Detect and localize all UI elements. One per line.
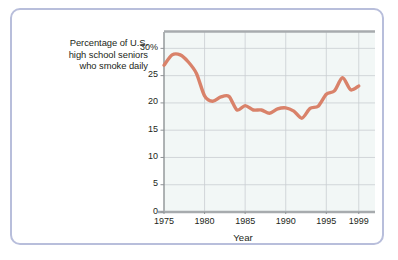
x-axis-title-text: Year [233,232,252,243]
figure-frame: Percentage of U.S. high school seniors w… [10,8,384,245]
x-tick-label: 1975 [144,216,184,226]
x-tick-label: 1985 [225,216,265,226]
chart-axis-title-line-1: Percentage of U.S. [26,37,148,49]
x-tick-label: 1990 [266,216,306,226]
chart-axis-title-line-3: who smoke daily [26,60,148,72]
y-tick-label: 25 [148,69,158,79]
x-tick-label: 1999 [339,216,379,226]
y-tick-label: 15 [148,124,158,134]
x-tick-label: 1980 [185,216,225,226]
x-axis-title: Year [12,232,382,243]
y-tick-label: 20 [148,96,158,106]
plot-area: 051015202530%197519801985199019951999 [154,22,376,214]
y-tick-label: 0 [153,206,158,216]
figure-inner: Percentage of U.S. high school seniors w… [12,10,382,243]
y-tick-label: 10 [148,151,158,161]
line-chart-svg [154,22,376,214]
y-tick-label: 30% [140,42,158,52]
y-tick-label: 5 [153,178,158,188]
chart-axis-title-line-2: high school seniors [26,49,148,61]
chart-axis-title: Percentage of U.S. high school seniors w… [26,37,148,72]
